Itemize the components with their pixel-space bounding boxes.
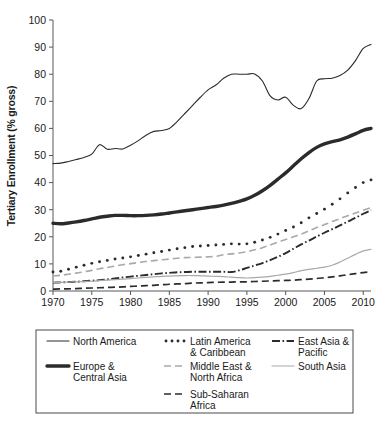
x-tick-label: 1990 xyxy=(196,296,220,308)
legend-swatch-dot xyxy=(183,340,186,343)
y-tick-label: 90 xyxy=(34,41,46,53)
y-tick-label: 60 xyxy=(34,122,46,134)
series-point xyxy=(121,256,124,259)
tertiary-enrollment-line-chart: Tertiary Enrollment (% gross) 0102030405… xyxy=(0,0,388,429)
y-axis-ticks: 0102030405060708090100 xyxy=(28,14,53,297)
y-tick-label: 30 xyxy=(34,204,46,216)
series-point xyxy=(370,178,373,181)
legend-item-sub-saharan-africa[interactable]: Sub-SaharanAfrica xyxy=(164,389,249,411)
series-point xyxy=(199,245,202,248)
legend-label: North Africa xyxy=(190,372,243,383)
x-tick-label: 1995 xyxy=(235,296,259,308)
legend: North AmericaLatin America& CaribbeanEas… xyxy=(47,336,349,411)
legend-label: Africa xyxy=(190,400,216,411)
y-tick-label: 40 xyxy=(34,176,46,188)
legend-swatch-dot xyxy=(177,340,180,343)
legend-label: South Asia xyxy=(298,361,346,372)
series-point xyxy=(238,243,241,246)
y-tick-label: 20 xyxy=(34,231,46,243)
series-point xyxy=(106,259,109,262)
x-tick-label: 1985 xyxy=(158,296,182,308)
series-point xyxy=(114,258,117,261)
legend-label: Pacific xyxy=(298,347,327,358)
series-point xyxy=(269,236,272,239)
series-point xyxy=(145,253,148,256)
legend-label: North America xyxy=(73,336,137,347)
legend-swatch-dot xyxy=(165,340,168,343)
y-tick-label: 80 xyxy=(34,68,46,80)
series-point xyxy=(83,264,86,267)
x-tick-label: 1970 xyxy=(41,296,65,308)
series-point xyxy=(346,191,349,194)
series-point xyxy=(253,241,256,244)
series-point xyxy=(245,242,248,245)
series-point xyxy=(90,262,93,265)
series-point xyxy=(160,250,163,253)
x-tick-label: 2010 xyxy=(352,296,376,308)
x-tick-label: 1980 xyxy=(119,296,143,308)
series-point xyxy=(315,212,318,215)
legend-item-north-america[interactable]: North America xyxy=(47,336,137,347)
x-tick-label: 2005 xyxy=(313,296,337,308)
legend-label: Central Asia xyxy=(73,372,127,383)
figure-caption-cropped xyxy=(8,419,258,427)
series-point xyxy=(52,271,55,274)
y-tick-label: 70 xyxy=(34,95,46,107)
legend-label: Middle East & xyxy=(190,361,252,372)
series-point xyxy=(129,255,132,258)
series-point xyxy=(191,245,194,248)
legend-item-south-asia[interactable]: South Asia xyxy=(272,361,346,372)
series-point xyxy=(276,233,279,236)
series-point xyxy=(67,268,70,271)
legend-item-latin-america-caribbean[interactable]: Latin America& Caribbean xyxy=(165,336,251,358)
series-point xyxy=(222,243,225,246)
x-tick-label: 1975 xyxy=(80,296,104,308)
series-point xyxy=(214,243,217,246)
series-point xyxy=(339,197,342,200)
series-point xyxy=(183,246,186,249)
series-point xyxy=(300,221,303,224)
legend-label: East Asia & xyxy=(298,336,349,347)
chart-figure: Tertiary Enrollment (% gross) 0102030405… xyxy=(0,0,388,429)
series-line xyxy=(53,210,371,282)
series-dotted xyxy=(52,178,373,273)
legend-item-europe-central-asia[interactable]: Europe &Central Asia xyxy=(47,361,127,383)
series-point xyxy=(292,226,295,229)
legend-label: Sub-Saharan xyxy=(190,389,249,400)
series-point xyxy=(323,208,326,211)
y-axis-title: Tertiary Enrollment (% gross) xyxy=(5,86,17,226)
x-axis-ticks: 197019751980198519901995200020052010 xyxy=(41,291,375,308)
y-tick-label: 10 xyxy=(34,258,46,270)
series-point xyxy=(137,254,140,257)
y-tick-label: 50 xyxy=(34,149,46,161)
series-point xyxy=(261,239,264,242)
series-point xyxy=(98,260,101,263)
data-series-group xyxy=(52,44,373,289)
series-point xyxy=(75,266,78,269)
series-point xyxy=(168,249,171,252)
x-tick-label: 2000 xyxy=(274,296,298,308)
legend-item-middle-east-north-africa[interactable]: Middle East &North Africa xyxy=(164,361,252,383)
series-point xyxy=(152,251,155,254)
series-point xyxy=(59,270,62,273)
series-point xyxy=(176,247,179,250)
series-point xyxy=(354,186,357,189)
y-tick-label: 100 xyxy=(28,14,46,26)
series-point xyxy=(207,244,210,247)
legend-label: Latin America xyxy=(190,336,251,347)
series-point xyxy=(362,181,365,184)
legend-item-east-asia-pacific[interactable]: East Asia &Pacific xyxy=(272,336,349,358)
series-point xyxy=(284,229,287,232)
series-point xyxy=(308,216,311,219)
series-point xyxy=(331,203,334,206)
legend-label: & Caribbean xyxy=(190,347,246,358)
y-tick-label: 0 xyxy=(40,285,46,297)
legend-label: Europe & xyxy=(73,361,115,372)
legend-swatch-dot xyxy=(171,340,174,343)
series-point xyxy=(230,242,233,245)
